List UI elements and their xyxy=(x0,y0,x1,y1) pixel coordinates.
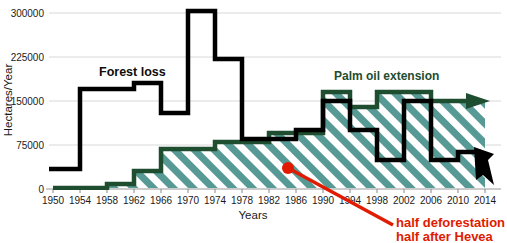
x-tick-label: 1954 xyxy=(69,195,92,206)
y-tick-label: 225000 xyxy=(11,52,45,63)
x-tick-label: 2010 xyxy=(447,195,470,206)
forest-loss-label: Forest loss xyxy=(99,65,166,79)
x-tick-label: 1990 xyxy=(312,195,335,206)
x-tick-label: 1974 xyxy=(204,195,227,206)
x-axis-tick-labels: 1950 1954 1958 1962 1966 1970 1974 1978 … xyxy=(42,195,497,206)
x-tick-label: 1962 xyxy=(123,195,146,206)
x-tick-label: 1978 xyxy=(231,195,254,206)
x-tick-label: 1982 xyxy=(258,195,281,206)
y-tick-label: 300000 xyxy=(11,8,45,19)
x-axis-title: Years xyxy=(239,209,268,221)
x-tick-label: 1958 xyxy=(96,195,119,206)
y-tick-label: 150000 xyxy=(11,96,45,107)
x-tick-label: 2014 xyxy=(474,195,497,206)
callout-text-line-2: half after Hevea xyxy=(396,229,494,243)
y-tick-label: 0 xyxy=(38,184,44,195)
callout-marker-dot xyxy=(282,162,294,174)
deforestation-palm-oil-chart: 300000 225000 150000 75000 0 Hectares/Ye… xyxy=(0,0,507,243)
x-tick-label: 1970 xyxy=(177,195,200,206)
chart-container: 300000 225000 150000 75000 0 Hectares/Ye… xyxy=(0,0,507,243)
x-tick-label: 2002 xyxy=(393,195,416,206)
x-tick-label: 2006 xyxy=(420,195,443,206)
callout-text-line-1: half deforestation xyxy=(396,215,505,230)
palm-oil-label: Palm oil extension xyxy=(334,69,439,83)
x-tick-label: 1966 xyxy=(150,195,173,206)
y-tick-label: 75000 xyxy=(16,140,44,151)
x-tick-label: 1950 xyxy=(42,195,65,206)
x-tick-label: 1986 xyxy=(285,195,308,206)
x-tick-label: 1998 xyxy=(366,195,389,206)
y-axis-title: Hectares/Year xyxy=(2,64,14,137)
